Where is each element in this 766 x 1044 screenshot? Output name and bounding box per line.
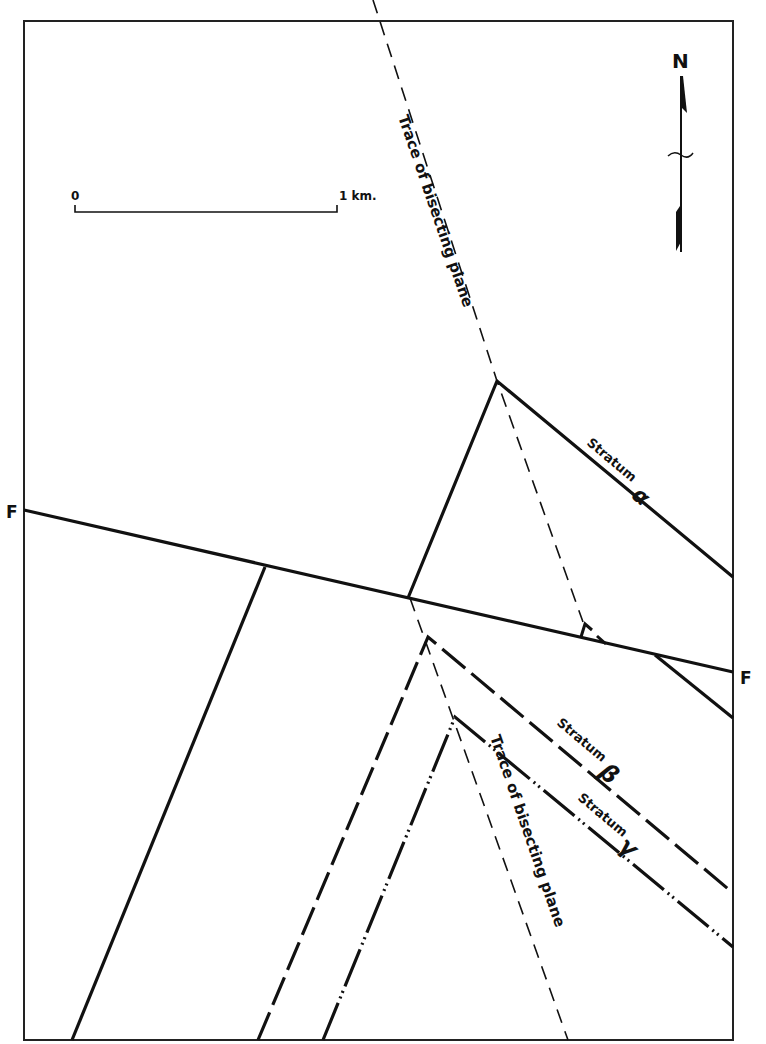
svg-text:Stratum: Stratum [554, 715, 609, 765]
stratum-alpha-line [408, 381, 733, 598]
stratum-gamma-label: Stratum γ [565, 790, 646, 864]
lower-trace-label: Trace of bisecting plane [486, 732, 569, 929]
stratum-gamma-line [323, 717, 733, 1040]
geologic-fold-diagram: 0 1 km. N F F Trace of bisecting plane T… [0, 0, 766, 1044]
lower-bisecting-trace [410, 598, 568, 1040]
north-arrow-icon: N [668, 49, 693, 252]
svg-text:Stratum: Stratum [575, 790, 630, 840]
north-label: N [672, 49, 689, 73]
fault-line [24, 510, 733, 672]
lower-block-limb [72, 567, 265, 1040]
upper-bisecting-trace [373, 0, 583, 622]
fault-label-right: F [740, 668, 752, 688]
map-frame [24, 21, 733, 1040]
scale-start-label: 0 [71, 189, 79, 203]
scale-bar: 0 1 km. [71, 189, 377, 212]
upper-trace-label: Trace of bisecting plane [394, 112, 477, 309]
fault-label-left: F [6, 502, 18, 522]
scale-end-label: 1 km. [339, 189, 377, 203]
stratum-beta-label: Stratum β [544, 715, 625, 790]
svg-text:α: α [627, 482, 655, 511]
stratum-alpha-label: Stratum α [575, 435, 658, 511]
